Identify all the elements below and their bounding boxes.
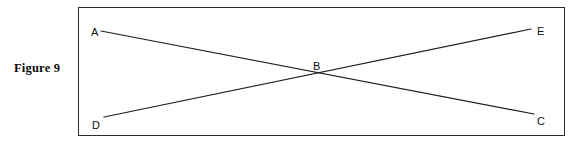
point-label-c: C bbox=[537, 115, 545, 127]
segment-de bbox=[104, 29, 531, 117]
line-diagram: A B C D E bbox=[79, 8, 566, 137]
figure-caption: Figure 9 bbox=[14, 61, 78, 75]
figure-container: Figure 9 A B C D E bbox=[0, 0, 583, 143]
point-label-b: B bbox=[313, 60, 320, 72]
point-label-d: D bbox=[92, 119, 100, 131]
point-label-e: E bbox=[537, 25, 544, 37]
diagram-frame: A B C D E bbox=[78, 7, 565, 136]
point-label-a: A bbox=[91, 26, 99, 38]
